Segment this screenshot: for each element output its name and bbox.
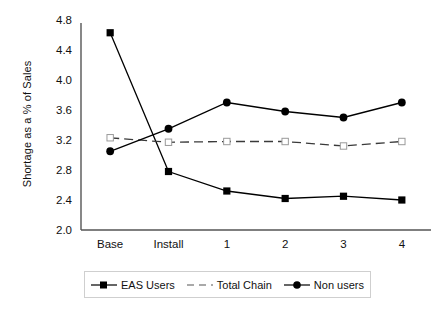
data-point-marker xyxy=(340,114,348,122)
series-line-total-chain xyxy=(110,138,402,146)
data-point-marker xyxy=(340,193,347,200)
legend-label-total-chain: Total Chain xyxy=(217,279,272,291)
chart-figure: Shortage as a % of Sales 2.02.42.83.23.6… xyxy=(0,0,439,315)
data-point-marker xyxy=(399,138,405,144)
data-point-marker xyxy=(340,143,346,149)
legend-item-eas-users[interactable]: EAS Users xyxy=(91,279,175,291)
chart-legend: EAS Users Total Chain Non users xyxy=(84,271,371,298)
data-point-marker xyxy=(165,139,171,145)
data-point-marker xyxy=(282,195,289,202)
data-point-marker xyxy=(106,147,114,155)
data-point-marker xyxy=(224,138,230,144)
series-line-eas-users xyxy=(110,33,402,200)
legend-symbol-filled-circle xyxy=(284,279,310,291)
data-point-marker xyxy=(165,168,172,175)
legend-symbol-dashed-line xyxy=(187,279,213,291)
legend-item-non-users[interactable]: Non users xyxy=(284,279,364,291)
data-point-marker xyxy=(165,125,173,133)
data-point-marker xyxy=(107,135,113,141)
data-point-marker xyxy=(282,138,288,144)
series-line-non-users xyxy=(110,103,402,152)
data-point-marker xyxy=(398,196,405,203)
data-point-marker xyxy=(107,29,114,36)
legend-item-total-chain[interactable]: Total Chain xyxy=(187,279,272,291)
plot-area xyxy=(0,0,439,315)
data-point-marker xyxy=(223,187,230,194)
legend-symbol-filled-square xyxy=(91,279,117,291)
legend-label-non-users: Non users xyxy=(314,279,364,291)
data-point-marker xyxy=(398,99,406,107)
data-point-marker xyxy=(281,108,289,116)
data-point-marker xyxy=(223,99,231,107)
legend-label-eas-users: EAS Users xyxy=(121,279,175,291)
